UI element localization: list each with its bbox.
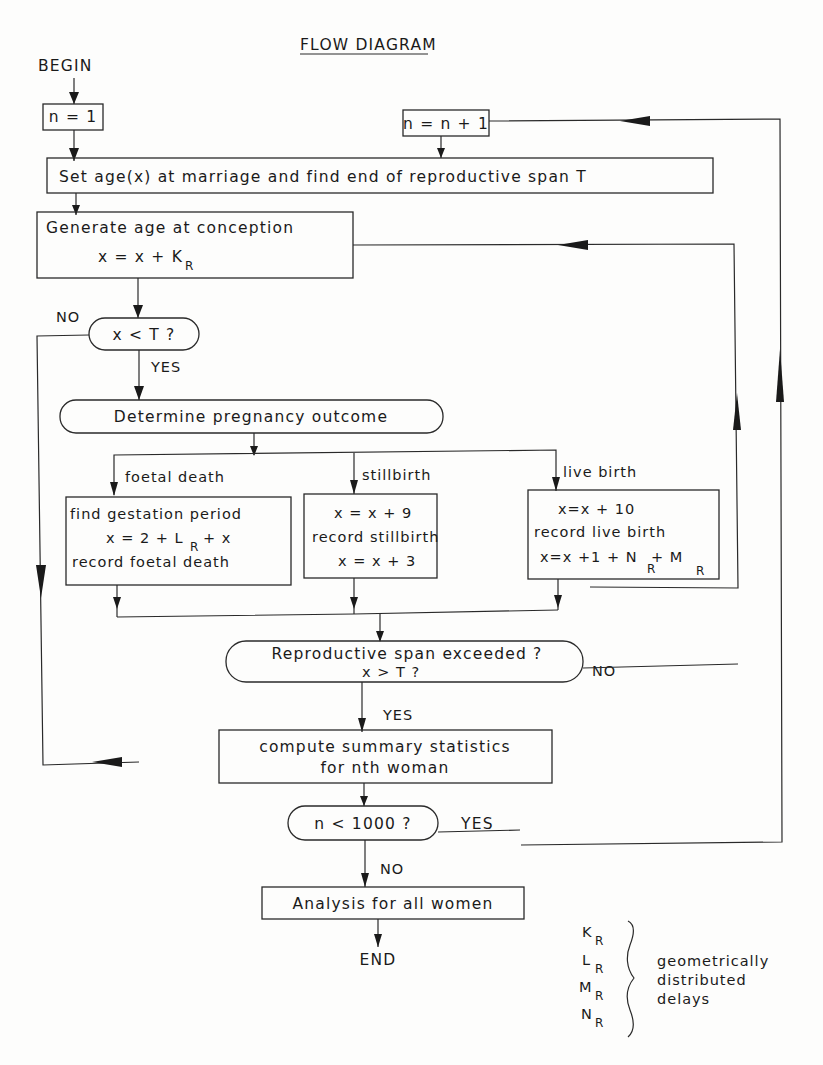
determine-outcome-label: Determine pregnancy outcome: [114, 408, 388, 426]
generate-age-line1: Generate age at conception: [46, 219, 294, 237]
legend-k-sub: R: [595, 934, 603, 948]
arrow-down-icon: [554, 595, 562, 608]
arrow-down-icon: [437, 148, 445, 158]
diagram-title: FLOW DIAGRAM: [300, 36, 437, 54]
arrow-down-icon: [133, 305, 143, 318]
span-no-label: NO: [592, 663, 616, 679]
connector-loop-n-yes: [489, 119, 782, 845]
legend-l: L: [582, 952, 591, 968]
x-lt-t-no-label: NO: [56, 309, 80, 325]
legend-l-sub: R: [595, 962, 603, 976]
legend-n-sub: R: [595, 1016, 603, 1030]
arrow-up-icon: [776, 349, 784, 402]
n-no-label: NO: [380, 861, 404, 877]
arrow-down-icon: [110, 482, 118, 496]
live-birth-line1: x=x + 10: [558, 501, 635, 517]
arrow-down-icon: [374, 934, 382, 947]
legend-brace: [627, 921, 634, 1037]
span-exceeded-line1: Reproductive span exceeded ?: [271, 645, 542, 663]
foetal-death-line3: record foetal death: [72, 554, 230, 570]
span-exceeded-line2: x > T ?: [362, 664, 420, 680]
legend-line3: delays: [657, 991, 710, 1007]
generate-age-sub: R: [185, 259, 193, 273]
legend-line1: geometrically: [657, 953, 769, 969]
arrow-down-icon: [552, 477, 560, 491]
foetal-death-line2a: x = 2 + L: [106, 530, 184, 546]
summary-stats-line1: compute summary statistics: [259, 738, 511, 756]
arrow-down-icon: [360, 796, 368, 806]
legend-m-sub: R: [595, 989, 603, 1003]
arrow-down-icon: [134, 386, 144, 400]
flow-diagram: FLOW DIAGRAM BEGIN n = 1 n = n + 1 Set a…: [0, 0, 823, 1065]
stillbirth-line3: x = x + 3: [338, 553, 416, 569]
arrow-up-icon: [733, 393, 741, 430]
arrow-left-icon: [620, 116, 650, 126]
stillbirth-line2: record stillbirth: [312, 529, 439, 545]
foetal-death-line1: find gestation period: [70, 506, 242, 522]
arrow-down-icon: [350, 480, 358, 494]
increment-n-label: n = n + 1: [403, 115, 489, 133]
legend-n: N: [581, 1006, 593, 1022]
arrow-down-icon: [69, 148, 79, 161]
begin-label: BEGIN: [38, 57, 93, 75]
live-birth-line3a: x=x +1 + N: [540, 549, 638, 565]
arrow-down-icon: [72, 205, 80, 215]
legend-k: K: [582, 924, 593, 940]
legend-m: M: [579, 979, 593, 995]
span-yes-label: YES: [382, 707, 413, 723]
legend-line2: distributed: [657, 972, 747, 988]
arrow-right-icon: [92, 757, 122, 767]
arrow-down-icon: [113, 597, 121, 609]
foetal-death-line2b: + x: [203, 530, 231, 546]
foetal-death-sub: R: [190, 540, 198, 554]
analysis-label: Analysis for all women: [292, 895, 493, 913]
arrow-down-icon: [361, 873, 369, 887]
generate-age-line2: x = x + K: [98, 248, 183, 266]
arrow-down-icon: [350, 597, 358, 609]
summary-stats-line2: for nth woman: [320, 759, 449, 777]
set-age-label: Set age(x) at marriage and find end of r…: [59, 168, 587, 186]
branch-stillbirth-label: stillbirth: [362, 467, 431, 483]
arrow-down-icon: [36, 565, 46, 598]
legend: K R L R M R N R geometrically distribute…: [579, 921, 769, 1037]
decision-x-lt-t-label: x < T ?: [112, 326, 175, 344]
live-birth-sub2: R: [696, 564, 704, 578]
live-birth-line2: record live birth: [534, 524, 666, 540]
arrow-down-icon: [250, 446, 258, 456]
live-birth-line3b: + M: [651, 549, 683, 565]
end-label: END: [360, 951, 397, 969]
decision-n-lt-1000-label: n < 1000 ?: [314, 815, 411, 833]
connector-merge-bottom: [117, 610, 558, 617]
x-lt-t-yes-label: YES: [150, 359, 181, 375]
branch-foetal-death-label: foetal death: [125, 469, 225, 485]
branch-live-birth-label: live birth: [563, 464, 637, 480]
init-n-label: n = 1: [49, 108, 98, 126]
arrow-left-icon: [558, 240, 588, 250]
stillbirth-line1: x = x + 9: [334, 505, 412, 521]
arrow-down-icon: [69, 92, 79, 104]
